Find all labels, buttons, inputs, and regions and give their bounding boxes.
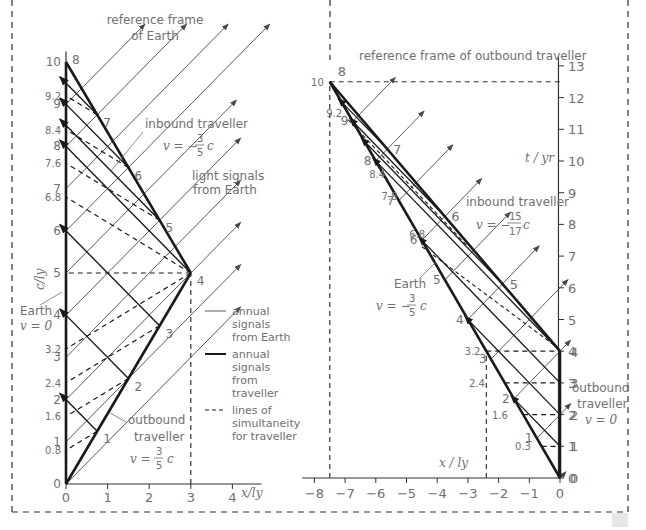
t-tick-label: 6 <box>568 281 576 296</box>
x-tick-label: −8 <box>305 486 324 501</box>
legend-text: for traveller <box>232 430 297 443</box>
x-tick-label: −1 <box>520 486 539 501</box>
frac-den: 5 <box>197 147 203 158</box>
traveller-tick-label: 1 <box>103 432 111 446</box>
earth-simultaneity-label: 7.8 <box>382 191 398 202</box>
svg-text:5: 5 <box>156 460 162 471</box>
y-tick-label: 6 <box>53 224 61 238</box>
t-tick-label: 9 <box>568 186 576 201</box>
r-label-earth: Earth <box>394 277 426 291</box>
label-earth-velocity: v = 0 <box>20 319 52 333</box>
traveller-tick-label: 7 <box>393 142 401 157</box>
t-tick-label: 12 <box>568 91 585 106</box>
t-tick-label: 10 <box>568 154 585 169</box>
x-tick-label: 1 <box>103 490 111 505</box>
traveller-signal <box>60 224 160 325</box>
earth-simultaneity-label: 3.2 <box>464 346 480 357</box>
label-inbound-velocity: v = − <box>163 139 198 153</box>
inbound-traveller-worldline <box>330 82 560 351</box>
traveller-tick-label: 5 <box>510 277 518 292</box>
label-light-signals: light signals <box>192 169 264 183</box>
svg-text:15: 15 <box>509 211 522 222</box>
page-corner-marker <box>612 513 628 527</box>
traveller-tick-label: 1 <box>570 439 578 454</box>
svg-text:c: c <box>167 452 174 466</box>
y-tick-label: 1 <box>53 435 61 449</box>
svg-text:c: c <box>420 299 427 313</box>
label-outbound-traveller: outbound <box>128 413 185 427</box>
traveller-signal <box>361 138 502 284</box>
traveller-tick-label: 8 <box>72 53 80 67</box>
y-tick-label: 4 <box>53 308 61 322</box>
traveller-tick-label: 6 <box>451 209 459 224</box>
traveller-tick-label: 0 <box>570 471 578 486</box>
y-tick-label: 7 <box>53 182 61 196</box>
traveller-tick-label: 4 <box>197 274 205 288</box>
traveller-tick-label: 3 <box>166 327 174 341</box>
legend-text: simultaneity <box>232 417 301 430</box>
traveller-tick-label: 7 <box>103 116 111 130</box>
left-x-axis-label: x/ly <box>241 486 263 500</box>
r-label-outbound-velocity: v = 0 <box>585 413 617 427</box>
earth-light-signal <box>66 180 241 357</box>
y-tick-label: 5 <box>53 266 61 280</box>
legend-text: signals <box>232 318 271 331</box>
r-label-outbound: outbound <box>572 381 629 395</box>
earth-light-signal <box>514 340 571 399</box>
traveller-tick-label: 6 <box>134 169 142 183</box>
earth-simultaneity-label: 0.3 <box>515 441 531 452</box>
r-label-earth-velocity: v = − <box>376 299 411 313</box>
t-tick-label: 11 <box>568 122 585 137</box>
x-tick-label: −3 <box>458 486 477 501</box>
x-tick-label: −6 <box>366 486 385 501</box>
y-tick-label: 2 <box>53 393 61 407</box>
earth-simultaneity-label: 2.4 <box>469 378 485 389</box>
legend: annual signals from Earth annual signals… <box>205 305 301 443</box>
relativity-diagram: 0123400.811.622.433.24566.877.688.499.21… <box>0 0 646 530</box>
svg-text:c: c <box>523 218 530 232</box>
x-tick-label: −4 <box>428 486 447 501</box>
y-tick-label: 2.4 <box>45 378 61 389</box>
left-title-line2: of Earth <box>131 29 179 43</box>
earth-tick-label: 8 <box>364 154 372 168</box>
x-tick-label: 2 <box>145 490 153 505</box>
legend-text: signals <box>232 361 271 374</box>
t-tick-label: 7 <box>568 249 576 264</box>
left-title-line1: reference frame <box>107 13 204 27</box>
y-tick-label: 7.6 <box>45 158 61 169</box>
y-tick-label: 8.4 <box>45 125 61 136</box>
earth-tick-label: 5 <box>433 273 441 287</box>
earth-simultaneity-label: 9.2 <box>326 108 342 119</box>
label-earth: Earth <box>20 304 52 318</box>
y-tick-label: 0 <box>53 477 61 491</box>
x-tick-label: 4 <box>228 490 236 505</box>
x-tick-label: 0 <box>556 486 564 501</box>
y-tick-label: 3.2 <box>45 344 61 355</box>
label-from-earth: from Earth <box>193 183 257 197</box>
r-label-inbound: inbound traveller <box>466 195 569 209</box>
right-title: reference frame of outbound traveller <box>359 49 587 63</box>
left-y-axis-label: c/ly <box>33 268 47 290</box>
legend-item-earth-signals: annual <box>232 305 269 318</box>
y-tick-label: 8 <box>53 139 61 153</box>
svg-text:5: 5 <box>409 307 415 318</box>
svg-text:3: 3 <box>156 446 162 457</box>
x-tick-label: 0 <box>62 490 70 505</box>
earth-simultaneity-label: 1.6 <box>492 410 508 421</box>
earth-tick-label: 4 <box>456 313 464 327</box>
x-tick-label: −2 <box>489 486 508 501</box>
legend-item-traveller-signals: annual <box>232 348 269 361</box>
r-label-outbound2: traveller <box>577 397 628 411</box>
right-y-axis-label: t / yr <box>525 151 555 165</box>
label-inbound-traveller: inbound traveller <box>145 117 248 131</box>
r-label-inbound-velocity: v = − <box>476 218 511 232</box>
earth-tick-label: 2 <box>502 392 510 406</box>
earth-simultaneity-label: 8.4 <box>369 169 385 180</box>
c: c <box>207 139 214 153</box>
traveller-signal <box>373 158 560 351</box>
earth-simultaneity-label: 6.8 <box>409 229 425 240</box>
x-tick-label: −7 <box>336 486 355 501</box>
svg-text:3: 3 <box>409 293 415 304</box>
traveller-frame-chart: −8−7−6−5−4−3−2−1001234567891011121312345… <box>302 56 584 501</box>
earth-light-signal <box>66 307 241 484</box>
